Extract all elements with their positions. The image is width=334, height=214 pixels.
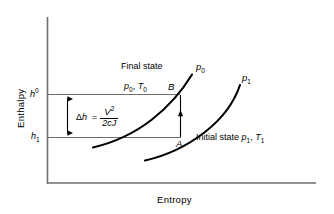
curve-label-p0: p0 bbox=[196, 62, 205, 74]
initial-state-temperature-subscript: 1 bbox=[261, 137, 265, 144]
point-label-b: B bbox=[168, 82, 174, 92]
curve-label-p0-subscript: 0 bbox=[201, 67, 205, 74]
curve-label-p1: p1 bbox=[242, 73, 251, 85]
final-state-temperature-subscript: 0 bbox=[143, 86, 147, 93]
equals-sign: = bbox=[92, 112, 97, 122]
tick-label-h-stagnation-superscript: 0 bbox=[35, 87, 39, 94]
isobar-curve-p1 bbox=[145, 85, 240, 161]
curve-label-p1-subscript: 1 bbox=[247, 78, 251, 85]
initial-state-text: Initial state bbox=[196, 132, 242, 142]
equation-h-symbol: h bbox=[82, 112, 87, 122]
final-state-label: Final state bbox=[121, 62, 163, 71]
equation-velocity-exponent: 2 bbox=[111, 105, 115, 112]
diagram-canvas bbox=[0, 0, 334, 214]
tick-label-h-initial: h1 bbox=[31, 132, 40, 143]
tick-label-h-stagnation: h0 bbox=[30, 88, 39, 99]
equation-fraction: V2 2cJ bbox=[100, 106, 118, 129]
equation-numerator: V2 bbox=[102, 106, 116, 117]
point-label-a: A bbox=[176, 139, 182, 149]
enthalpy-entropy-diagram: Enthalpy Entropy h0 h1 Final state p0, T… bbox=[0, 0, 334, 214]
y-axis-title: Enthalpy bbox=[16, 89, 26, 128]
process-arrowhead-icon bbox=[178, 110, 183, 116]
delta-h-equation: Δh = V2 2cJ bbox=[76, 106, 118, 129]
delta-h-lhs: Δh bbox=[76, 112, 87, 122]
x-axis-title: Entropy bbox=[157, 195, 192, 205]
initial-state-label: Initial state p1, T1 bbox=[196, 133, 264, 144]
tick-label-h-initial-subscript: 1 bbox=[36, 136, 40, 143]
final-state-properties-label: p0, T0 bbox=[124, 82, 147, 93]
equation-denominator: 2cJ bbox=[100, 119, 118, 128]
